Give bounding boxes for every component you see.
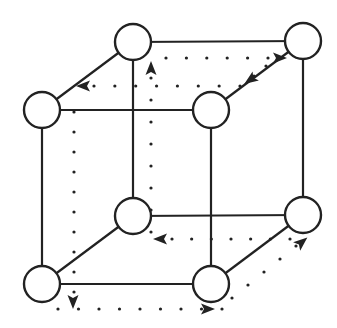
node-top-front-left: [24, 92, 60, 128]
path-dot: [113, 84, 116, 87]
path-dot: [205, 56, 208, 59]
path-dot: [238, 84, 241, 87]
path-dot: [97, 307, 100, 310]
node-bottom-front-right: [193, 266, 229, 302]
cube-edges: [42, 41, 303, 284]
node-top-back-right: [285, 23, 321, 59]
path-dot: [72, 270, 75, 273]
cube-graph-canvas: [0, 0, 337, 328]
node-bottom-back-right: [285, 197, 321, 233]
path-dot: [210, 237, 213, 240]
cube-edge: [133, 41, 303, 42]
node-bottom-front-left: [24, 266, 60, 302]
path-dot: [269, 237, 272, 240]
path-dot: [246, 283, 249, 286]
arrow-down-icon: [68, 295, 79, 309]
path-dot: [218, 84, 221, 87]
path-dot: [229, 237, 232, 240]
path-dot: [197, 84, 200, 87]
path-dot: [190, 237, 193, 240]
node-top-front-right: [193, 92, 229, 128]
node-top-back-left: [115, 24, 151, 60]
path-dot: [266, 56, 269, 59]
path-dot: [164, 56, 167, 59]
path-dot: [72, 210, 75, 213]
path-dot: [92, 84, 95, 87]
path-dot: [185, 56, 188, 59]
path-dot: [72, 250, 75, 253]
arrow-up-icon: [146, 61, 157, 75]
path-dot: [72, 130, 75, 133]
dotted-path: [56, 56, 297, 310]
path-dot: [134, 84, 137, 87]
arrow-up-right-icon: [293, 233, 311, 250]
path-dot: [72, 170, 75, 173]
path-dot: [77, 307, 80, 310]
path-dot: [56, 307, 59, 310]
path-dot: [159, 307, 162, 310]
path-dot: [72, 290, 75, 293]
path-dot: [72, 110, 75, 113]
path-dot: [249, 237, 252, 240]
path-dot: [176, 84, 179, 87]
cube-nodes: [24, 23, 321, 302]
path-dot: [118, 307, 121, 310]
path-dot: [200, 307, 203, 310]
node-bottom-back-left: [115, 198, 151, 234]
path-dot: [155, 84, 158, 87]
path-dot: [230, 296, 233, 299]
path-dot: [149, 142, 152, 145]
path-dot: [72, 150, 75, 153]
path-dot: [149, 76, 152, 79]
path-dot: [246, 56, 249, 59]
path-dot: [226, 56, 229, 59]
path-dot: [149, 186, 152, 189]
path-arrows: [68, 53, 311, 315]
path-dot: [149, 120, 152, 123]
path-dot: [149, 164, 152, 167]
arrow-left-icon: [153, 234, 167, 245]
path-dot: [72, 190, 75, 193]
path-dot: [149, 230, 152, 233]
path-dot: [72, 230, 75, 233]
path-dot: [138, 307, 141, 310]
path-dot: [264, 64, 267, 67]
path-dot: [294, 244, 297, 247]
path-dot: [288, 237, 291, 240]
path-dot: [149, 98, 152, 101]
arrow-right-icon: [201, 304, 215, 315]
path-dot: [170, 237, 173, 240]
cube-diagram: [0, 0, 337, 328]
path-dot: [262, 270, 265, 273]
path-dot: [179, 307, 182, 310]
path-dot: [220, 307, 223, 310]
path-dot: [278, 257, 281, 260]
cube-edge: [133, 215, 303, 216]
